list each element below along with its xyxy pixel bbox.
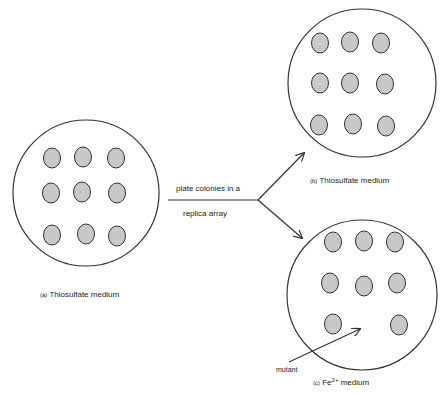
- plate-b-caption: (b) Thiosulfate medium: [310, 176, 389, 185]
- plate-c-suffix: medium: [341, 378, 369, 387]
- colony: [391, 315, 408, 335]
- arrow-to-plate-c: [258, 200, 302, 238]
- petri-plate-c: [287, 220, 437, 370]
- mutant-arrow: [289, 329, 360, 362]
- replica-plating-diagram: [0, 0, 445, 395]
- colony: [109, 226, 126, 246]
- colony: [378, 116, 395, 136]
- colony: [108, 148, 125, 168]
- colony: [78, 224, 95, 244]
- colony: [356, 276, 373, 296]
- colony: [325, 314, 342, 334]
- colony: [325, 232, 342, 252]
- colony: [312, 73, 329, 93]
- colony: [342, 32, 359, 52]
- plate-a-prefix: (a): [40, 292, 47, 298]
- colony: [44, 225, 61, 245]
- transfer-label-top: plate colonies in a: [176, 184, 240, 193]
- colony: [312, 33, 329, 53]
- colony: [43, 183, 60, 203]
- plate-c-prefix: (c): [313, 380, 320, 386]
- colony: [373, 33, 390, 53]
- mutant-label: mutant: [276, 366, 297, 373]
- colony: [389, 273, 406, 293]
- colony: [75, 147, 92, 167]
- plate-b-prefix: (b): [310, 178, 317, 184]
- petri-plate-b: [288, 9, 436, 157]
- colony: [342, 73, 359, 93]
- plate-c-caption: (c) Fe2+ medium: [313, 378, 369, 387]
- colony: [44, 148, 61, 168]
- plate-a-label: Thiosulfate medium: [49, 290, 119, 299]
- colony: [377, 74, 394, 94]
- plate-outline: [288, 9, 436, 157]
- plate-b-label: Thiosulfate medium: [319, 176, 389, 185]
- colony: [322, 273, 339, 293]
- plate-a-caption: (a) Thiosulfate medium: [40, 290, 119, 299]
- colony: [345, 114, 362, 134]
- plate-c-label: Fe: [322, 378, 331, 387]
- colony: [311, 115, 328, 135]
- arrow-to-plate-b: [258, 153, 304, 200]
- petri-plate-a: [13, 120, 159, 266]
- plate-c-superscript: 2+: [332, 377, 339, 383]
- colony: [356, 231, 373, 251]
- colony: [387, 232, 404, 252]
- transfer-label-bottom: replica array: [183, 209, 227, 218]
- colony: [74, 182, 91, 202]
- colony: [109, 183, 126, 203]
